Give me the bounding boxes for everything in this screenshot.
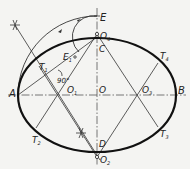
arc-E-to-E1 [72, 16, 97, 52]
label-E: E [100, 12, 107, 23]
label-O1: O1 [67, 85, 77, 96]
line-O2-T4 [97, 63, 158, 157]
label-D: D [99, 139, 106, 149]
bisector-mark-top [10, 20, 20, 30]
point-O2 [95, 155, 98, 158]
label-T3: T3 [160, 129, 169, 140]
label-O: O [99, 85, 106, 95]
diagram-canvas: E O4 C E1 T1 90° A O1 O O3 B T4 T2 T3 D … [0, 0, 190, 169]
label-B: B [178, 85, 185, 96]
label-O2: O2 [100, 155, 110, 166]
line-O4-T3 [97, 34, 158, 127]
label-T2: T2 [32, 135, 41, 146]
label-O4: O4 [100, 31, 110, 42]
label-C: C [99, 44, 106, 54]
label-T4: T4 [160, 51, 169, 62]
arc-arrow-1 [58, 29, 62, 33]
label-O3: O3 [142, 85, 152, 96]
label-A: A [8, 88, 16, 99]
label-E1: E1 [63, 52, 72, 63]
right-angle-mark [58, 70, 62, 76]
point-E1 [74, 56, 76, 58]
point-O4 [95, 32, 98, 35]
ellipse-construction-diagram: E O4 C E1 T1 90° A O1 O O3 B T4 T2 T3 D … [0, 0, 190, 169]
label-angle-90: 90° [57, 77, 69, 85]
label-T1: T1 [39, 62, 48, 73]
